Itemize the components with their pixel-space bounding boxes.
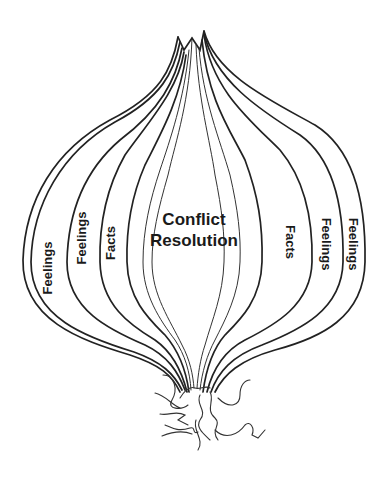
label-facts-left-inner: Facts (103, 226, 118, 260)
root-3 (160, 413, 188, 425)
label-feelings-left-outer: Feelings (40, 242, 55, 295)
root-6 (195, 420, 200, 450)
center-label-line2: Resolution (150, 230, 238, 251)
onion-roots (155, 375, 265, 450)
root-8 (210, 392, 218, 440)
center-label-line1: Conflict (150, 209, 238, 230)
root-9 (215, 423, 265, 438)
label-facts-right-inner: Facts (283, 225, 298, 259)
root-10 (218, 380, 250, 405)
root-5 (162, 432, 192, 436)
label-feelings-left-middle: Feelings (74, 212, 89, 265)
root-7 (199, 395, 210, 440)
root-2 (155, 393, 180, 408)
center-label: Conflict Resolution (150, 209, 238, 251)
onion-tip (178, 31, 204, 50)
label-feelings-right-outer: Feelings (346, 218, 361, 271)
label-feelings-right-middle: Feelings (319, 218, 334, 271)
